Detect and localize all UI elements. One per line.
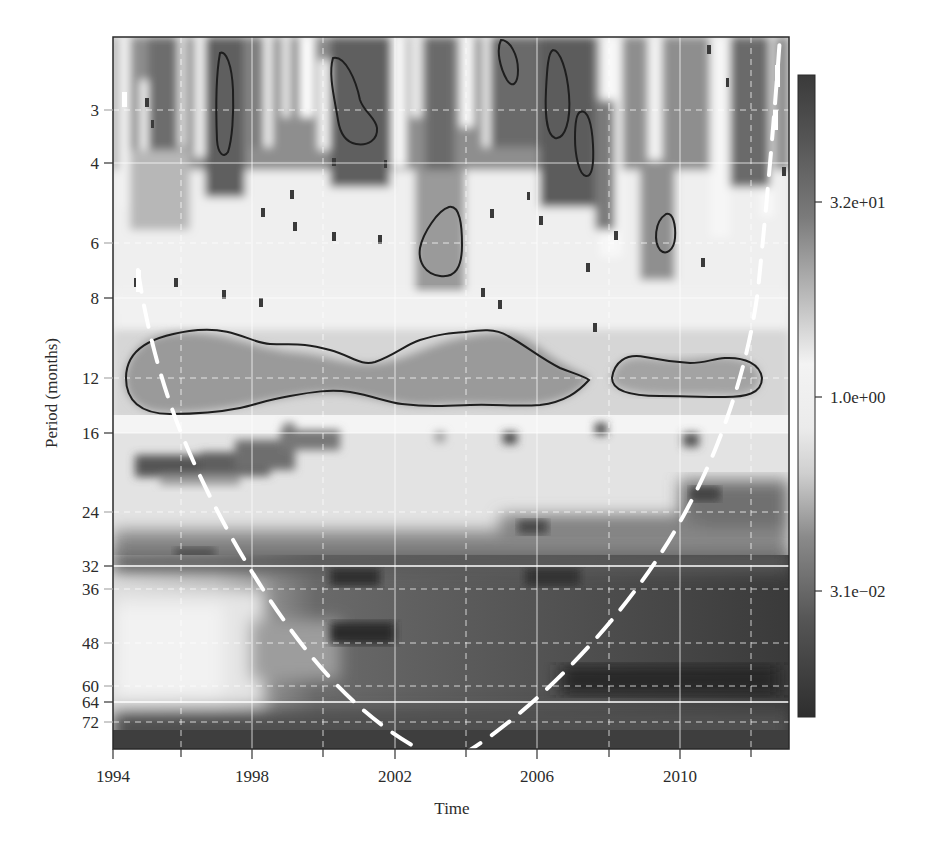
y-tick-label: 12 xyxy=(82,369,99,388)
y-tick-label: 64 xyxy=(82,693,100,712)
mid-period-region xyxy=(113,415,789,564)
x-tick-label: 1994 xyxy=(96,767,131,786)
y-tick-label: 72 xyxy=(82,713,99,732)
y-tick-label: 4 xyxy=(91,154,100,173)
y-axis: 3 4 6 8 12 16 24 32 36 48 60 64 72 Perio… xyxy=(42,101,113,732)
y-tick-labels: 3 4 6 8 12 16 24 32 36 48 60 64 72 xyxy=(82,101,100,732)
y-tick-label: 32 xyxy=(82,557,99,576)
x-ticks xyxy=(113,749,751,759)
colorbar-label-mid: 1.0e+00 xyxy=(830,388,885,407)
x-tick-label: 2010 xyxy=(663,767,697,786)
colorbar: 3.2e+01 1.0e+00 3.1e−02 xyxy=(798,75,885,717)
y-tick-label: 24 xyxy=(82,503,100,522)
heatmap-area xyxy=(113,37,789,755)
wavelet-power-figure: 3 4 6 8 12 16 24 32 36 48 60 64 72 Perio… xyxy=(0,0,944,859)
y-tick-label: 8 xyxy=(91,289,100,308)
colorbar-label-high: 3.2e+01 xyxy=(830,193,885,212)
x-tick-labels: 1994 1998 2002 2006 2010 xyxy=(96,767,697,786)
y-tick-label: 48 xyxy=(82,634,99,653)
x-tick-label: 1998 xyxy=(235,767,269,786)
short-period-streaks xyxy=(113,37,789,310)
y-tick-label: 16 xyxy=(82,424,99,443)
long-period-region xyxy=(113,552,789,749)
x-axis-title: Time xyxy=(434,799,469,818)
y-ticks xyxy=(104,110,113,722)
y-tick-label: 36 xyxy=(82,580,99,599)
y-tick-label: 3 xyxy=(91,101,100,120)
x-tick-label: 2002 xyxy=(378,767,412,786)
colorbar-gradient xyxy=(798,75,815,717)
colorbar-label-low: 3.1e−02 xyxy=(830,582,885,601)
x-tick-label: 2006 xyxy=(520,767,554,786)
x-axis: 1994 1998 2002 2006 2010 Time xyxy=(96,749,751,818)
y-tick-label: 6 xyxy=(91,234,100,253)
y-axis-title: Period (months) xyxy=(42,338,61,448)
